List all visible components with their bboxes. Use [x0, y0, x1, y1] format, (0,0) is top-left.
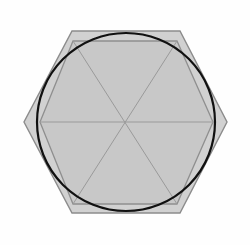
geometry-svg — [0, 0, 250, 245]
figure-canvas — [0, 0, 250, 245]
